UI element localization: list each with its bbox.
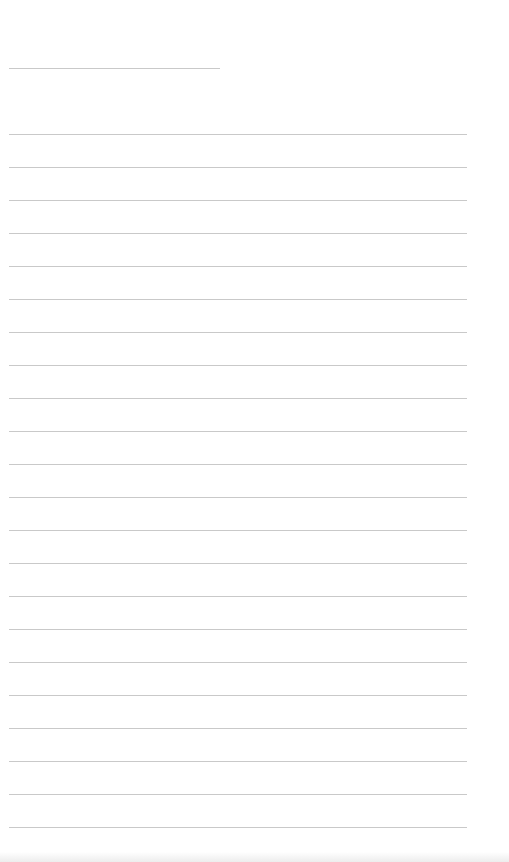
ruled-line xyxy=(9,563,467,564)
ruled-line xyxy=(9,464,467,465)
ruled-line xyxy=(9,827,467,828)
ruled-line xyxy=(9,695,467,696)
scan-edge-shadow xyxy=(0,852,509,862)
ruled-line xyxy=(9,332,467,333)
ruled-line xyxy=(9,365,467,366)
ruled-line xyxy=(9,200,467,201)
lined-page xyxy=(0,0,509,862)
ruled-line xyxy=(9,662,467,663)
ruled-line xyxy=(9,266,467,267)
ruled-line xyxy=(9,134,467,135)
ruled-line xyxy=(9,233,467,234)
ruled-line xyxy=(9,728,467,729)
ruled-line xyxy=(9,398,467,399)
ruled-line xyxy=(9,497,467,498)
ruled-line xyxy=(9,761,467,762)
ruled-line xyxy=(9,167,467,168)
title-line xyxy=(9,68,220,69)
ruled-line xyxy=(9,794,467,795)
ruled-line xyxy=(9,431,467,432)
ruled-line xyxy=(9,299,467,300)
ruled-line xyxy=(9,530,467,531)
ruled-line xyxy=(9,596,467,597)
ruled-line xyxy=(9,629,467,630)
